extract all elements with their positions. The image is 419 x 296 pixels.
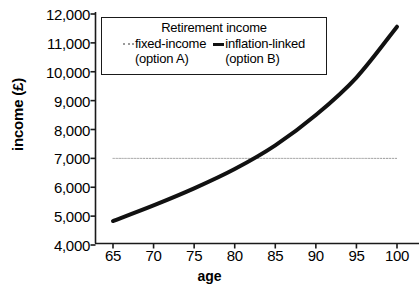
legend-title: Retirement income: [102, 20, 326, 35]
legend-entry-inflation-linked: inflation-linked (option B): [213, 36, 305, 66]
retirement-income-chart: income (£) age 4,0005,0006,0007,0008,000…: [0, 0, 419, 296]
legend-label-fixed-income-sub: (option A): [135, 51, 206, 66]
legend-swatch-fixed-income-icon: [123, 43, 134, 45]
legend: Retirement income fixed-income (option A…: [101, 17, 327, 75]
legend-entries: fixed-income (option A) inflation-linked…: [102, 36, 326, 66]
legend-label-inflation-linked-name: inflation-linked: [225, 36, 305, 51]
legend-label-inflation-linked-sub: (option B): [225, 51, 305, 66]
legend-label-inflation-linked: inflation-linked (option B): [225, 36, 305, 66]
legend-label-fixed-income: fixed-income (option A): [135, 36, 206, 66]
legend-entry-fixed-income: fixed-income (option A): [123, 36, 206, 66]
legend-swatch-inflation-linked-icon: [213, 43, 224, 46]
legend-label-fixed-income-name: fixed-income: [135, 36, 206, 51]
